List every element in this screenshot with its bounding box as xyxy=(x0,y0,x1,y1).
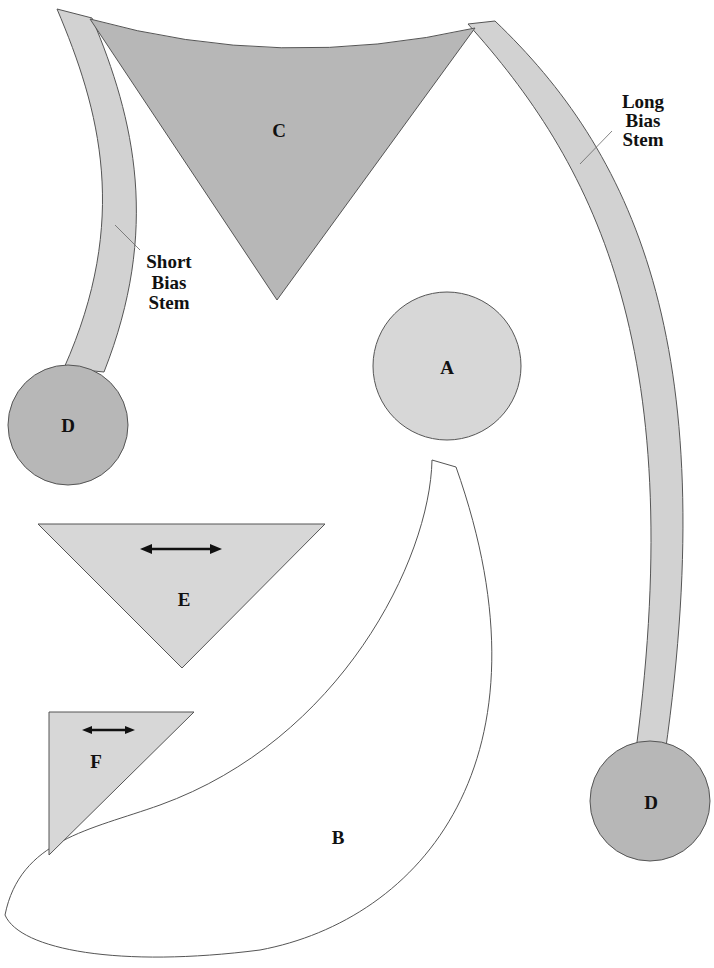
long-stem-callout: Long Bias Stem xyxy=(622,91,665,150)
svg-text:Stem: Stem xyxy=(148,292,189,313)
svg-text:Long: Long xyxy=(622,91,665,112)
piece-c-label: C xyxy=(272,120,286,141)
svg-text:Short: Short xyxy=(146,251,192,272)
piece-f-label: F xyxy=(90,751,102,772)
svg-text:Bias: Bias xyxy=(152,272,187,293)
svg-text:Stem: Stem xyxy=(622,129,663,150)
piece-a-label: A xyxy=(440,357,454,378)
short-stem-callout: Short Bias Stem xyxy=(146,251,192,313)
piece-b-label: B xyxy=(332,827,345,848)
pattern-diagram: C B A D D E F Short Bias Stem Long Bias … xyxy=(0,0,714,968)
piece-d-left-label: D xyxy=(61,415,75,436)
piece-e-label: E xyxy=(178,589,191,610)
piece-d-right-label: D xyxy=(644,792,658,813)
svg-text:Bias: Bias xyxy=(626,110,661,131)
